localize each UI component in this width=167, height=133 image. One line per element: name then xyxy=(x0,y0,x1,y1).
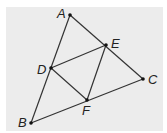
segment-df xyxy=(51,68,87,100)
segment-ac xyxy=(70,15,143,79)
point-d xyxy=(49,66,53,70)
point-f xyxy=(85,98,89,102)
triangle-diagram: ABCDEF xyxy=(0,0,167,133)
label-f: F xyxy=(82,103,91,118)
point-e xyxy=(104,43,108,47)
point-c xyxy=(141,77,145,81)
label-b: B xyxy=(18,115,27,130)
label-e: E xyxy=(111,36,120,51)
segment-ef xyxy=(87,45,106,100)
label-a: A xyxy=(56,6,66,21)
segment-de xyxy=(51,45,106,68)
label-d: D xyxy=(37,62,46,77)
vertex-labels: ABCDEF xyxy=(18,6,158,130)
point-a xyxy=(68,13,72,17)
point-b xyxy=(29,121,33,125)
label-c: C xyxy=(148,72,158,87)
